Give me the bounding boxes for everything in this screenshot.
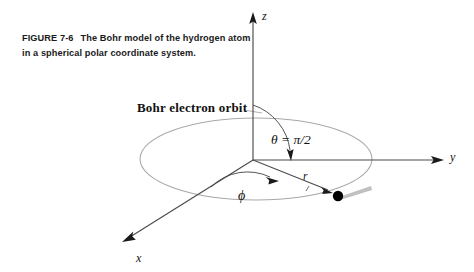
theta-angle-label: θ = π/2 (271, 132, 311, 148)
radius-label-leader (306, 186, 309, 191)
bohr-orbit-ellipse (140, 118, 372, 200)
figure-container: FIGURE 7-6The Bohr model of the hydrogen… (0, 0, 474, 272)
coordinate-diagram (0, 0, 474, 272)
x-axis-line (130, 160, 253, 237)
theta-arc-arrowhead (287, 148, 294, 161)
x-axis-arrowhead (122, 231, 136, 242)
radius-label: r (303, 170, 307, 182)
electron-dot (333, 191, 343, 201)
phi-arc (211, 172, 270, 187)
bohr-orbit-label: Bohr electron orbit (137, 100, 247, 116)
y-axis-label: y (450, 150, 455, 165)
x-axis-label: x (136, 251, 141, 266)
phi-arc-arrowhead (266, 177, 279, 184)
electron-motion-trail (339, 186, 372, 200)
z-axis-label: z (262, 9, 267, 24)
phi-angle-label: ϕ (238, 188, 245, 204)
